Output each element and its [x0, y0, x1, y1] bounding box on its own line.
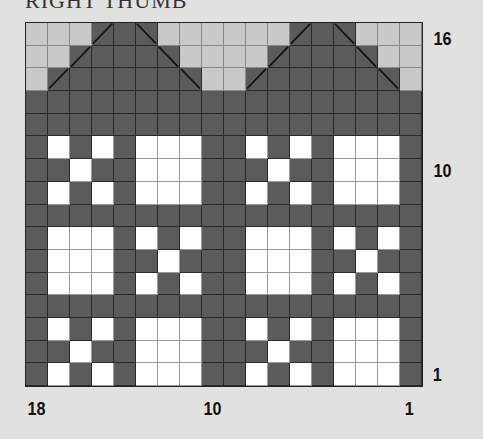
chart-cell — [26, 68, 48, 91]
chart-cell — [70, 159, 92, 182]
chart-cell — [356, 205, 378, 228]
decrease-diagonal-icon — [378, 68, 399, 90]
chart-cell — [400, 159, 422, 182]
chart-cell — [246, 295, 268, 318]
chart-cell — [290, 23, 312, 46]
chart-cell — [334, 295, 356, 318]
decrease-diagonal-icon — [48, 68, 69, 90]
chart-cell — [334, 363, 356, 386]
chart-cell — [246, 182, 268, 205]
chart-cell — [202, 68, 224, 91]
chart-cell — [114, 23, 136, 46]
chart-cell — [268, 227, 290, 250]
chart-cell — [136, 295, 158, 318]
chart-cell — [202, 341, 224, 364]
chart-cell — [92, 273, 114, 296]
decrease-diagonal-icon — [180, 68, 201, 90]
chart-cell — [136, 114, 158, 137]
chart-cell — [136, 68, 158, 91]
chart-cell — [180, 205, 202, 228]
chart-cell — [158, 363, 180, 386]
chart-cell — [246, 114, 268, 137]
chart-cell — [70, 68, 92, 91]
chart-cell — [136, 46, 158, 69]
chart-cell — [268, 182, 290, 205]
chart-cell — [26, 91, 48, 114]
chart-cell — [290, 363, 312, 386]
chart-cell — [224, 136, 246, 159]
chart-cell — [224, 273, 246, 296]
chart-cell — [356, 136, 378, 159]
chart-cell — [180, 68, 202, 91]
chart-cell — [114, 159, 136, 182]
chart-cell — [136, 159, 158, 182]
chart-cell — [114, 46, 136, 69]
chart-cell — [224, 114, 246, 137]
chart-cell — [312, 159, 334, 182]
chart-cell — [312, 227, 334, 250]
decrease-diagonal-icon — [158, 46, 179, 68]
chart-cell — [180, 114, 202, 137]
chart-cell — [114, 227, 136, 250]
chart-cell — [92, 46, 114, 69]
chart-cell — [356, 227, 378, 250]
chart-cell — [92, 68, 114, 91]
chart-cell — [48, 114, 70, 137]
chart-cell — [92, 341, 114, 364]
chart-cell — [400, 205, 422, 228]
decrease-diagonal-icon — [290, 23, 311, 45]
chart-cell — [268, 341, 290, 364]
chart-cell — [268, 273, 290, 296]
chart-cell — [312, 318, 334, 341]
decrease-diagonal-icon — [356, 46, 377, 68]
chart-cell — [312, 250, 334, 273]
chart-cell — [268, 23, 290, 46]
chart-cell — [312, 295, 334, 318]
chart-cell — [70, 136, 92, 159]
chart-cell — [180, 159, 202, 182]
chart-cell — [378, 182, 400, 205]
chart-cell — [400, 136, 422, 159]
chart-cell — [202, 205, 224, 228]
chart-cell — [48, 341, 70, 364]
chart-cell — [290, 295, 312, 318]
chart-cell — [202, 46, 224, 69]
chart-cell — [356, 318, 378, 341]
chart-cell — [70, 227, 92, 250]
chart-cell — [400, 273, 422, 296]
chart-cell — [136, 205, 158, 228]
col-label-10: 10 — [204, 398, 222, 420]
chart-cell — [136, 182, 158, 205]
chart-title: RIGHT THUMB — [25, 0, 187, 14]
chart-cell — [158, 273, 180, 296]
chart-cell — [400, 68, 422, 91]
chart-cell — [26, 341, 48, 364]
chart-cell — [136, 136, 158, 159]
chart-cell — [334, 23, 356, 46]
chart-cell — [202, 159, 224, 182]
chart-cell — [92, 250, 114, 273]
chart-cell — [290, 68, 312, 91]
chart-cell — [268, 363, 290, 386]
chart-cell — [180, 46, 202, 69]
chart-cell — [356, 182, 378, 205]
chart-cell — [224, 91, 246, 114]
chart-cell — [224, 68, 246, 91]
chart-cell — [26, 318, 48, 341]
chart-cell — [136, 341, 158, 364]
chart-cell — [334, 91, 356, 114]
chart-cell — [114, 91, 136, 114]
decrease-diagonal-icon — [92, 23, 113, 45]
chart-cell — [26, 23, 48, 46]
chart-cell — [114, 273, 136, 296]
chart-cell — [356, 114, 378, 137]
chart-cell — [268, 136, 290, 159]
chart-cell — [70, 363, 92, 386]
chart-cell — [224, 227, 246, 250]
chart-cell — [92, 295, 114, 318]
chart-cell — [246, 227, 268, 250]
knitting-chart-grid — [25, 22, 423, 387]
chart-cell — [400, 23, 422, 46]
chart-cell — [334, 250, 356, 273]
chart-cell — [48, 250, 70, 273]
